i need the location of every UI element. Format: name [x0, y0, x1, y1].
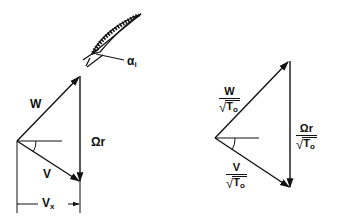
w-over-sqrt-to-label: W √To — [219, 86, 240, 114]
diagram-canvas — [0, 0, 348, 221]
omega-r-over-sqrt-to-label: Ωr √To — [296, 123, 317, 151]
v-over-sqrt-to-label: V √To — [226, 162, 247, 190]
flow-angle-arc — [33, 141, 36, 152]
left-velocity-triangle — [17, 76, 80, 213]
omega-r-label: Ωr — [91, 136, 105, 148]
w-vector-arrow — [17, 77, 79, 141]
vx-label: Vx — [42, 197, 54, 211]
flow-angle-arc-right — [232, 138, 235, 150]
incidence-angle-label: αi — [127, 55, 137, 69]
v-label: V — [43, 168, 51, 180]
w-label: W — [30, 98, 41, 110]
